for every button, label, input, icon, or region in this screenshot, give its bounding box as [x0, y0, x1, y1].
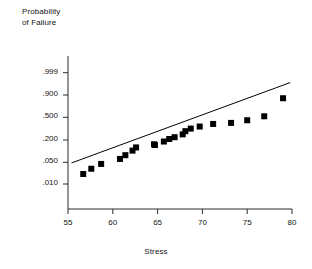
- data-point-marker: [166, 136, 172, 142]
- y-tick-label: .999: [18, 67, 58, 76]
- x-tick-marks: [68, 209, 292, 214]
- data-point-marker: [133, 144, 139, 150]
- y-tick-label: .900: [18, 89, 58, 98]
- fit-line-segment: [72, 83, 291, 163]
- data-point-marker: [161, 139, 167, 145]
- probability-plot: Probability of Failure Stress .010.050.2…: [0, 0, 312, 269]
- data-point-marker: [80, 171, 86, 177]
- data-point-marker: [152, 142, 158, 148]
- x-tick-label: 60: [93, 218, 133, 227]
- data-points: [80, 95, 286, 177]
- fit-line: [72, 83, 291, 163]
- data-point-marker: [197, 124, 203, 130]
- data-point-marker: [98, 161, 104, 167]
- data-point-marker: [117, 156, 123, 162]
- data-point-marker: [261, 113, 267, 119]
- data-point-marker: [172, 134, 178, 140]
- y-tick-label: .200: [18, 134, 58, 143]
- x-tick-label: 70: [182, 218, 222, 227]
- y-tick-marks: [63, 73, 68, 184]
- data-point-marker: [228, 120, 234, 126]
- x-tick-label: 65: [138, 218, 178, 227]
- x-tick-label: 75: [227, 218, 267, 227]
- data-point-marker: [280, 95, 286, 101]
- x-tick-label: 80: [272, 218, 312, 227]
- y-tick-label: .500: [18, 111, 58, 120]
- data-point-marker: [188, 126, 194, 132]
- data-point-marker: [122, 152, 128, 158]
- y-tick-label: .050: [18, 156, 58, 165]
- y-tick-label: .010: [18, 178, 58, 187]
- data-point-marker: [182, 128, 188, 134]
- x-tick-label: 55: [48, 218, 88, 227]
- data-point-marker: [88, 166, 94, 172]
- data-point-marker: [244, 117, 250, 123]
- data-point-marker: [210, 121, 216, 127]
